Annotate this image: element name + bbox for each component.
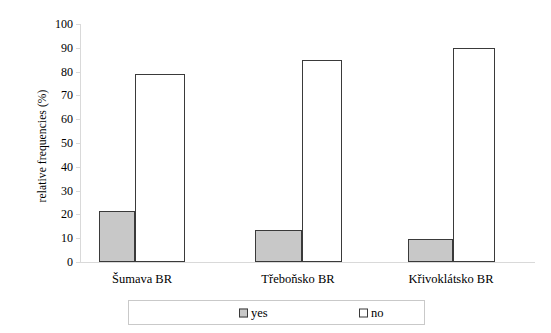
y-axis-line bbox=[80, 24, 81, 263]
y-axis-tick-mark bbox=[76, 119, 80, 120]
legend-swatch-yes bbox=[239, 308, 248, 317]
legend-swatch-no bbox=[359, 308, 368, 317]
x-axis-label-1: Šumava BR bbox=[112, 272, 172, 287]
bar-no-1 bbox=[135, 74, 185, 262]
legend: yesno bbox=[128, 300, 425, 325]
y-axis-tick-label: 50 bbox=[61, 137, 73, 149]
y-axis-tick-mark bbox=[76, 24, 80, 25]
y-axis-tick-label: 90 bbox=[61, 42, 73, 54]
bar-yes-2 bbox=[255, 230, 302, 262]
bar-yes-1 bbox=[99, 211, 135, 262]
x-axis-line bbox=[80, 262, 535, 263]
y-axis-tick-mark bbox=[76, 262, 80, 263]
y-axis-tick-mark bbox=[76, 143, 80, 144]
y-axis-tick-label: 60 bbox=[61, 113, 73, 125]
y-axis-tick-mark bbox=[76, 72, 80, 73]
y-axis-tick-label: 100 bbox=[55, 18, 73, 30]
bar-no-2 bbox=[302, 60, 342, 262]
legend-item-yes: yes bbox=[239, 305, 268, 320]
legend-label-yes: yes bbox=[251, 305, 268, 320]
y-axis-tick-label: 10 bbox=[61, 232, 73, 244]
y-axis-tick-label: 80 bbox=[61, 66, 73, 78]
plot-area: 0102030405060708090100 bbox=[80, 24, 535, 262]
y-axis-tick-mark bbox=[76, 238, 80, 239]
y-axis-tick-label: 70 bbox=[61, 89, 73, 101]
y-axis-tick-label: 30 bbox=[61, 185, 73, 197]
legend-item-no: no bbox=[359, 305, 384, 320]
x-axis-label-2: Třeboňsko BR bbox=[261, 272, 334, 287]
bar-yes-3 bbox=[408, 239, 453, 262]
x-axis-label-3: Křivoklátsko BR bbox=[408, 272, 493, 287]
y-axis-tick-mark bbox=[76, 167, 80, 168]
y-axis-tick-mark bbox=[76, 191, 80, 192]
y-axis-tick-mark bbox=[76, 48, 80, 49]
y-axis-tick-label: 20 bbox=[61, 208, 73, 220]
bar-chart: relative frequencies (%) 010203040506070… bbox=[0, 0, 551, 333]
y-axis-tick-label: 0 bbox=[67, 256, 73, 268]
y-axis-tick-mark bbox=[76, 214, 80, 215]
y-axis-tick-label: 40 bbox=[61, 161, 73, 173]
bar-no-3 bbox=[453, 48, 495, 262]
y-axis-title: relative frequencies (%) bbox=[36, 51, 48, 241]
legend-label-no: no bbox=[371, 305, 384, 320]
y-axis-tick-mark bbox=[76, 95, 80, 96]
